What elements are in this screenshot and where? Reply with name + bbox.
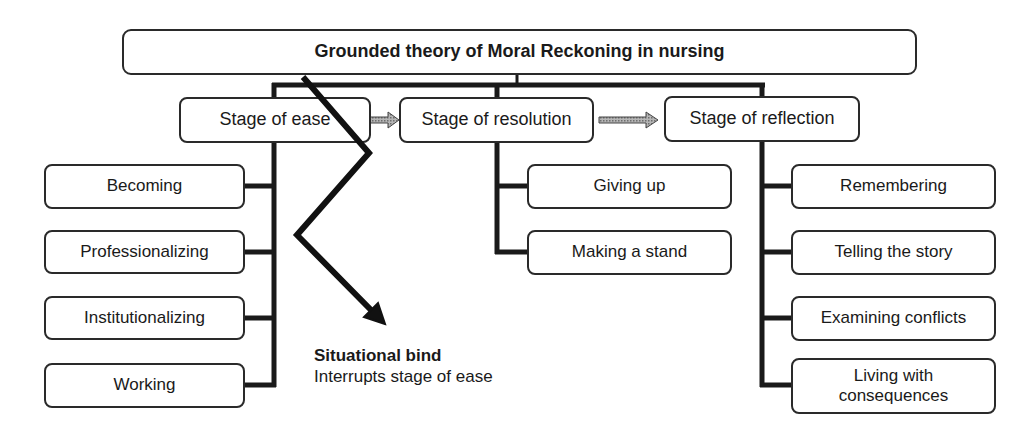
situational-bind-title: Situational bind xyxy=(314,345,493,366)
situational-bind-label: Situational bind Interrupts stage of eas… xyxy=(314,345,493,387)
situational-bind-description: Interrupts stage of ease xyxy=(314,366,493,387)
moral-reckoning-diagram: Grounded theory of Moral Reckoning in nu… xyxy=(0,0,1036,435)
situational-bind-arrow-icon xyxy=(0,0,1036,435)
